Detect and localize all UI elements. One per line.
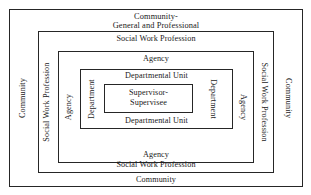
agency-top-label: Agency [58, 55, 254, 64]
community-left-label: Community [9, 9, 38, 187]
department-right-label-text: Department [209, 79, 217, 119]
community-bottom-label: Community [9, 176, 303, 185]
community-left-label-text: Community [19, 78, 27, 118]
community-top-label-line1: Community- [9, 12, 303, 21]
social-work-profession-right-label-text: Social Work Profession [260, 62, 268, 141]
community-top-label-line2: General and Professional [9, 21, 303, 30]
agency-bottom-label: Agency [58, 151, 254, 160]
agency-left-label-text: Agency [65, 94, 73, 120]
supervisor-supervisee-label: Supervisor- Supervisee [104, 88, 193, 107]
agency-right-label-text: Agency [239, 94, 247, 120]
social-work-profession-right-label: Social Work Profession [254, 31, 274, 173]
community-top-label: Community- General and Professional [9, 12, 303, 31]
supervisor-supervisee-label-line1: Supervisor- [104, 88, 193, 98]
community-right-label-text: Community [284, 78, 292, 118]
agency-left-label: Agency [58, 51, 80, 163]
social-work-profession-top-label: Social Work Profession [38, 35, 274, 44]
community-right-label: Community [274, 9, 303, 187]
nested-systems-diagram: Community- General and Professional Soci… [0, 0, 311, 195]
department-left-label: Department [80, 69, 104, 129]
social-work-profession-left-label-text: Social Work Profession [44, 62, 52, 141]
department-left-label-text: Department [88, 79, 96, 119]
department-right-label: Department [193, 69, 233, 129]
agency-right-label: Agency [233, 51, 254, 163]
supervisor-supervisee-label-line2: Supervisee [104, 98, 193, 108]
social-work-profession-left-label: Social Work Profession [38, 31, 58, 173]
